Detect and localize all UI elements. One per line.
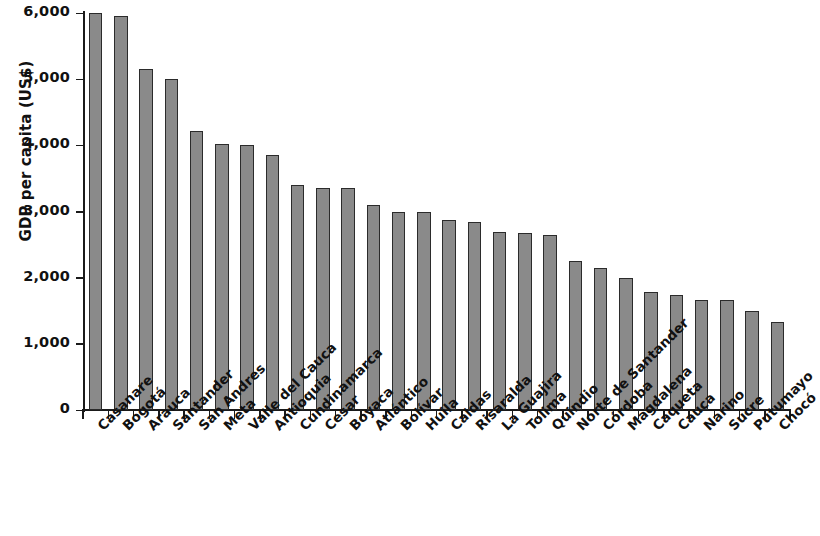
x-tick-mark: [562, 411, 564, 419]
bar: [543, 235, 557, 410]
bar: [139, 69, 153, 410]
x-tick-mark: [82, 411, 84, 419]
y-tick-mark: [76, 79, 83, 81]
bar: [468, 222, 482, 410]
x-tick-mark: [613, 411, 615, 419]
bar: [771, 322, 785, 410]
bar: [619, 278, 633, 410]
x-tick-mark: [158, 411, 160, 419]
x-tick-mark: [335, 411, 337, 419]
bar: [240, 145, 254, 410]
y-tick-label: 0: [8, 400, 70, 416]
x-tick-mark: [587, 411, 589, 419]
x-tick-mark: [714, 411, 716, 419]
x-tick-mark: [512, 411, 514, 419]
x-tick-mark: [360, 411, 362, 419]
x-tick-mark: [133, 411, 135, 419]
bar: [215, 144, 229, 410]
bar: [341, 188, 355, 410]
y-tick-mark: [76, 13, 83, 15]
bar: [190, 131, 204, 410]
bar: [594, 268, 608, 410]
y-tick-label: 4,000: [8, 135, 70, 151]
x-tick-mark: [789, 411, 791, 419]
x-tick-mark: [638, 411, 640, 419]
x-tick-mark: [108, 411, 110, 419]
bar: [720, 300, 734, 410]
bar: [367, 205, 381, 410]
y-tick-label: 5,000: [8, 69, 70, 85]
bar: [695, 300, 709, 410]
x-tick-mark: [688, 411, 690, 419]
y-tick-label: 2,000: [8, 268, 70, 284]
bar: [291, 185, 305, 410]
y-tick-mark: [76, 211, 83, 213]
x-tick-mark: [436, 411, 438, 419]
bar: [89, 13, 103, 410]
bar: [644, 292, 658, 410]
x-tick-mark: [284, 411, 286, 419]
bar: [442, 220, 456, 410]
y-tick-mark: [76, 343, 83, 345]
x-tick-mark: [461, 411, 463, 419]
x-tick-mark: [411, 411, 413, 419]
bar: [518, 233, 532, 410]
y-tick-label: 3,000: [8, 202, 70, 218]
bar: [114, 16, 128, 410]
x-tick-mark: [486, 411, 488, 419]
x-tick-mark: [310, 411, 312, 419]
plot-area: [83, 13, 790, 410]
x-tick-mark: [739, 411, 741, 419]
bar: [165, 79, 179, 410]
x-tick-mark: [259, 411, 261, 419]
bar: [392, 212, 406, 410]
x-tick-mark: [385, 411, 387, 419]
bar: [316, 188, 330, 410]
bar: [417, 212, 431, 410]
x-tick-mark: [209, 411, 211, 419]
x-tick-mark: [234, 411, 236, 419]
x-tick-mark: [537, 411, 539, 419]
y-tick-label: 6,000: [8, 3, 70, 19]
y-tick-mark: [76, 145, 83, 147]
bar: [493, 232, 507, 410]
bar: [670, 295, 684, 410]
x-tick-mark: [663, 411, 665, 419]
y-tick-mark: [76, 277, 83, 279]
y-tick-label: 1,000: [8, 334, 70, 350]
x-tick-mark: [183, 411, 185, 419]
bar: [745, 311, 759, 410]
x-tick-mark: [764, 411, 766, 419]
bar: [266, 155, 280, 410]
bar: [569, 261, 583, 410]
